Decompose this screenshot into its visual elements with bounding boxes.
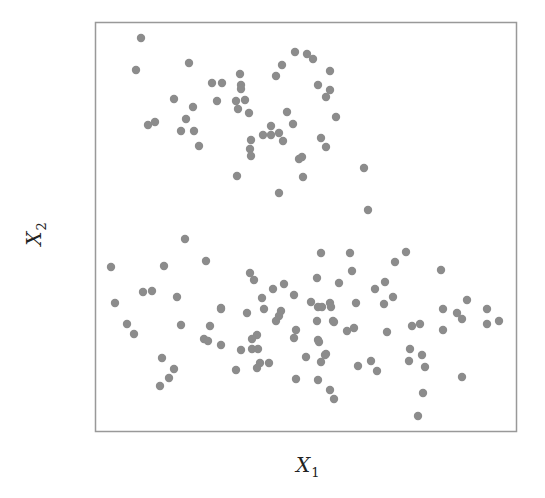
data-point: [360, 164, 368, 172]
data-point: [202, 257, 210, 265]
data-point: [335, 279, 343, 287]
data-point: [330, 395, 338, 403]
data-point: [371, 285, 379, 293]
data-point: [234, 105, 242, 113]
data-point: [185, 59, 193, 67]
data-point: [267, 122, 275, 130]
data-point: [245, 109, 253, 117]
data-point: [290, 291, 298, 299]
data-point: [237, 346, 245, 354]
data-point: [132, 66, 140, 74]
data-point: [402, 248, 410, 256]
data-point: [279, 137, 287, 145]
data-point: [156, 382, 164, 390]
data-point: [289, 120, 297, 128]
data-point: [189, 103, 197, 111]
data-point: [283, 108, 291, 116]
data-point: [278, 61, 286, 69]
data-point: [421, 363, 429, 371]
data-point: [299, 173, 307, 181]
data-point: [181, 235, 189, 243]
data-point: [307, 298, 315, 306]
data-point: [458, 373, 466, 381]
data-point: [330, 318, 338, 326]
data-point: [269, 285, 277, 293]
data-point: [383, 328, 391, 336]
data-point: [204, 337, 212, 345]
data-point: [123, 320, 131, 328]
data-point: [267, 131, 275, 139]
data-point: [463, 296, 471, 304]
data-point: [418, 351, 426, 359]
data-point: [416, 320, 424, 328]
data-point: [247, 136, 255, 144]
data-point: [408, 322, 416, 330]
data-point: [232, 366, 240, 374]
data-point: [373, 367, 381, 375]
data-point: [483, 320, 491, 328]
data-point: [217, 341, 225, 349]
data-point: [158, 354, 166, 362]
data-point: [298, 153, 306, 161]
data-point: [406, 345, 414, 353]
data-point: [302, 353, 310, 361]
data-point: [314, 376, 322, 384]
data-point: [217, 305, 225, 313]
data-point: [177, 321, 185, 329]
data-point: [313, 317, 321, 325]
data-point: [148, 287, 156, 295]
data-point: [352, 299, 360, 307]
data-point: [315, 338, 323, 346]
data-point: [439, 326, 447, 334]
data-point: [190, 127, 198, 135]
plot-frame: [96, 23, 517, 432]
data-point: [151, 118, 159, 126]
data-point: [380, 300, 388, 308]
data-point: [322, 143, 330, 151]
data-point: [326, 67, 334, 75]
data-point: [195, 142, 203, 150]
data-point: [232, 97, 240, 105]
data-point: [165, 374, 173, 382]
data-point: [327, 303, 335, 311]
data-point: [348, 267, 356, 275]
data-point: [326, 386, 334, 394]
data-point: [321, 351, 329, 359]
data-point: [160, 262, 168, 270]
data-point: [233, 172, 241, 180]
data-point: [458, 315, 466, 323]
data-point: [237, 85, 245, 93]
data-point: [275, 189, 283, 197]
data-point: [317, 134, 325, 142]
data-point: [314, 81, 322, 89]
data-point: [111, 299, 119, 307]
scatter-plot: [0, 0, 545, 498]
data-point: [318, 303, 326, 311]
data-point: [483, 305, 491, 313]
data-point: [177, 127, 185, 135]
data-point: [259, 131, 267, 139]
data-point: [170, 365, 178, 373]
data-point: [254, 345, 262, 353]
data-point: [206, 322, 214, 330]
data-point: [332, 113, 340, 121]
data-point: [265, 359, 273, 367]
data-point: [250, 276, 258, 284]
data-point: [182, 115, 190, 123]
data-point: [247, 152, 255, 160]
data-point: [275, 129, 283, 137]
data-point: [290, 334, 298, 342]
data-point: [280, 280, 288, 288]
data-point: [243, 309, 251, 317]
data-point: [137, 34, 145, 42]
data-point: [130, 330, 138, 338]
data-point: [391, 258, 399, 266]
y-axis-label: X2: [22, 222, 46, 246]
data-point: [248, 335, 256, 343]
data-point: [350, 324, 358, 332]
data-point: [292, 375, 300, 383]
data-point: [354, 362, 362, 370]
data-point: [241, 96, 249, 104]
data-point: [317, 249, 325, 257]
data-point: [272, 72, 280, 80]
